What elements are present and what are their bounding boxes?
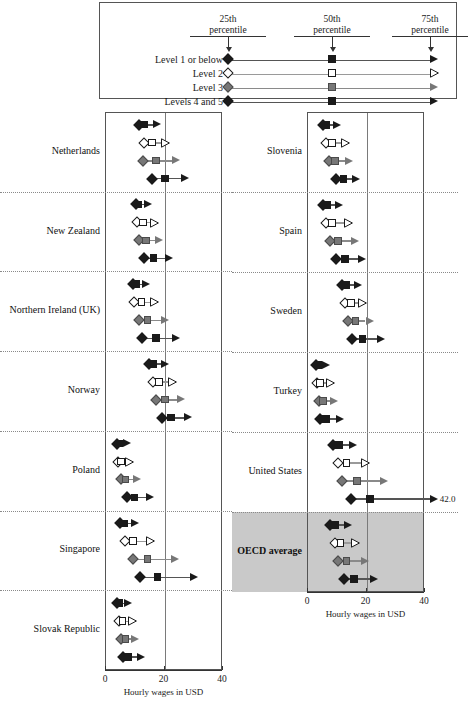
- p50-square-marker: [353, 477, 361, 485]
- p25-diamond-marker: [133, 314, 144, 325]
- series-row: [232, 155, 458, 167]
- p25-diamond-marker: [332, 457, 343, 468]
- p25-diamond-marker: [338, 573, 349, 584]
- series-row: [0, 633, 232, 645]
- p50-square-marker: [119, 617, 127, 625]
- p50-square-marker: [141, 121, 149, 129]
- p50-square-marker: [152, 334, 160, 342]
- p50-square-marker: [161, 396, 169, 404]
- country-separator: [0, 271, 232, 272]
- series-row: [0, 651, 232, 663]
- country-separator: [0, 431, 232, 432]
- legend-p75-arrow-marker: [430, 69, 438, 77]
- legend-header-line2: percentile: [392, 25, 468, 38]
- gridline-20: [165, 113, 166, 669]
- p50-square-marker: [150, 360, 158, 368]
- series-row: [0, 252, 232, 264]
- x-axis-tick: [222, 666, 223, 670]
- legend-p50-square-marker: [328, 55, 336, 63]
- series-row: [0, 376, 232, 388]
- legend-row-label: Level 1 or below: [155, 53, 223, 67]
- p50-square-marker: [324, 201, 332, 209]
- legend-pointer-arrow: [332, 37, 333, 48]
- series-row: [0, 358, 232, 370]
- legend-pointer-arrow: [228, 37, 229, 48]
- series-row: [0, 535, 232, 547]
- p50-square-marker: [154, 573, 162, 581]
- series-row: [0, 518, 232, 530]
- p75-arrow-marker: [161, 360, 169, 368]
- x-axis-tick-label: 40: [210, 674, 234, 684]
- p75-arrow-marker: [146, 537, 154, 545]
- p50-square-marker: [122, 635, 130, 643]
- series-row: [0, 615, 232, 627]
- p75-arrow-marker: [380, 477, 388, 485]
- p75-arrow-marker: [177, 395, 185, 403]
- p50-square-marker: [167, 414, 175, 422]
- p75-arrow-marker: [333, 121, 341, 129]
- legend-header-3: 75thpercentile: [392, 14, 468, 37]
- p75-arrow-marker: [161, 316, 169, 324]
- series-row: [232, 537, 458, 549]
- p25-diamond-marker: [146, 173, 157, 184]
- legend-header-1: 25thpercentile: [190, 14, 266, 37]
- p75-arrow-marker: [430, 495, 438, 503]
- x-axis-title: Hourly wages in USD: [85, 687, 242, 697]
- series-row: [0, 278, 232, 290]
- p50-square-marker: [347, 299, 355, 307]
- p25-diamond-marker: [347, 333, 358, 344]
- p75-arrow-marker: [370, 575, 378, 583]
- p50-square-marker: [343, 459, 351, 467]
- x-axis-tick-label: 20: [354, 596, 378, 606]
- series-row: [0, 199, 232, 211]
- p50-square-marker: [322, 121, 330, 129]
- p50-square-marker: [155, 378, 163, 386]
- p50-square-marker: [328, 139, 336, 147]
- country-separator: [232, 432, 458, 433]
- series-row: [0, 492, 232, 504]
- p75-arrow-marker: [181, 174, 189, 182]
- p50-square-marker: [120, 520, 128, 528]
- p25-diamond-marker: [151, 394, 162, 405]
- series-row: [0, 571, 232, 583]
- legend-row-2: Level 2: [228, 67, 430, 81]
- p75-arrow-marker: [330, 397, 338, 405]
- legend-p75-arrow-marker: [430, 97, 438, 105]
- p75-arrow-marker: [326, 379, 334, 387]
- p50-square-marker: [150, 254, 158, 262]
- p50-square-marker: [116, 599, 124, 607]
- p50-square-marker: [331, 521, 339, 529]
- p75-arrow-marker: [377, 335, 385, 343]
- country-separator: [232, 192, 458, 193]
- p75-arrow-marker: [142, 280, 150, 288]
- x-axis-tick: [105, 666, 106, 670]
- series-row: [0, 173, 232, 185]
- series-row: [0, 553, 232, 565]
- p75-arrow-marker: [128, 617, 136, 625]
- p50-square-marker: [359, 335, 367, 343]
- p75-arrow-marker: [172, 156, 180, 164]
- p75-arrow-marker: [322, 361, 330, 369]
- p50-square-marker: [161, 175, 169, 183]
- series-row: [0, 438, 232, 450]
- plot-area: [105, 112, 222, 670]
- series-row: [232, 519, 458, 531]
- p75-arrow-marker: [336, 415, 344, 423]
- p75-arrow-marker: [155, 236, 163, 244]
- series-row: [232, 439, 458, 451]
- p75-arrow-marker: [358, 255, 366, 263]
- p50-square-marker: [352, 317, 360, 325]
- series-row: [232, 475, 458, 487]
- legend-row-label: Level 2: [193, 67, 223, 81]
- p75-arrow-marker: [146, 493, 154, 501]
- series-row: [232, 297, 458, 309]
- series-row: [232, 573, 458, 585]
- legend-p75-arrow-marker: [430, 55, 438, 63]
- x-axis-line: [307, 592, 424, 593]
- x-axis-line: [105, 670, 222, 671]
- legend-row-1: Level 1 or below: [228, 53, 430, 67]
- p50-square-marker: [135, 201, 143, 209]
- series-row: [232, 137, 458, 149]
- series-row: [0, 412, 232, 424]
- legend-header-line1: 75th: [392, 14, 468, 25]
